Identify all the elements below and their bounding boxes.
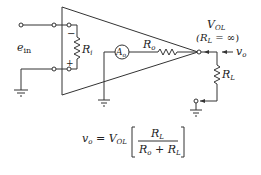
rl-infinity-condition: (RL = ∞) xyxy=(196,32,239,45)
ground-icon-ao xyxy=(98,100,110,106)
ein-label: ein xyxy=(17,41,31,55)
load-return-terminal xyxy=(194,99,198,103)
ground-icon-input xyxy=(14,90,28,96)
vol-label: VOL xyxy=(207,18,226,32)
vo-label: vo xyxy=(236,45,246,59)
arrow-icon-return xyxy=(200,99,205,103)
svg-text:vo = VOL: vo = VOL xyxy=(82,132,127,146)
minus-sign: − xyxy=(67,28,75,39)
ao-ground-wire xyxy=(104,52,115,100)
ro-label: Ro xyxy=(142,38,156,52)
output-terminal xyxy=(197,50,201,54)
op-amp-circuit-diagram: − + Ri ein Ao Ro VOL (RL = ∞) vo RL vo =… xyxy=(0,0,261,175)
ri-label: Ri xyxy=(81,43,93,57)
inverting-input-node xyxy=(67,23,71,27)
output-resistor-ro xyxy=(129,49,197,55)
svg-text:Ro + RL: Ro + RL xyxy=(138,143,181,157)
output-voltage-formula: vo = VOL RL Ro + RL xyxy=(82,127,184,157)
arrow-icon-output xyxy=(204,50,209,54)
rl-label: RL xyxy=(221,68,235,82)
load-resistor-rl xyxy=(200,52,220,101)
arrow-icon-vo xyxy=(222,50,227,54)
plus-sign: + xyxy=(66,58,74,68)
ground-icon-load xyxy=(190,110,202,116)
input-top-terminal xyxy=(19,23,23,27)
input-top-node xyxy=(52,23,56,27)
input-bottom-node xyxy=(52,67,56,71)
svg-text:RL: RL xyxy=(150,127,164,141)
